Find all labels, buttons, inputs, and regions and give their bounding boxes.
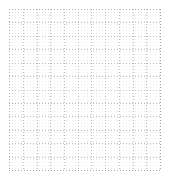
grid-hline-0 xyxy=(9,9,160,10)
grid-dot-texture xyxy=(9,9,160,170)
grid-hline-6 xyxy=(9,90,160,91)
grid-hline-4 xyxy=(9,63,160,64)
grid-hline-11 xyxy=(9,157,160,158)
grid-hline-3 xyxy=(9,49,160,50)
grid-vline-9 xyxy=(133,9,134,170)
canvas-root[interactable] xyxy=(0,0,169,179)
grid-hline-7 xyxy=(9,103,160,104)
grid-vertical-lines xyxy=(9,9,160,170)
grid-vline-8 xyxy=(119,9,120,170)
grid-hline-5 xyxy=(9,76,160,77)
dotted-grid-surface[interactable] xyxy=(9,9,160,170)
grid-vline-10 xyxy=(146,9,147,170)
grid-vline-6 xyxy=(91,9,92,170)
grid-vline-1 xyxy=(23,9,24,170)
grid-vline-3 xyxy=(50,9,51,170)
grid-hline-9 xyxy=(9,130,160,131)
grid-vline-7 xyxy=(105,9,106,170)
grid-vline-2 xyxy=(37,9,38,170)
grid-horizontal-lines xyxy=(9,9,160,170)
grid-hline-2 xyxy=(9,36,160,37)
grid-hline-1 xyxy=(9,22,160,23)
grid-vline-11 xyxy=(160,9,161,170)
grid-hline-8 xyxy=(9,116,160,117)
grid-vline-5 xyxy=(78,9,79,170)
grid-vline-0 xyxy=(9,9,10,170)
grid-hline-10 xyxy=(9,143,160,144)
grid-vline-4 xyxy=(64,9,65,170)
grid-hline-12 xyxy=(9,170,160,171)
